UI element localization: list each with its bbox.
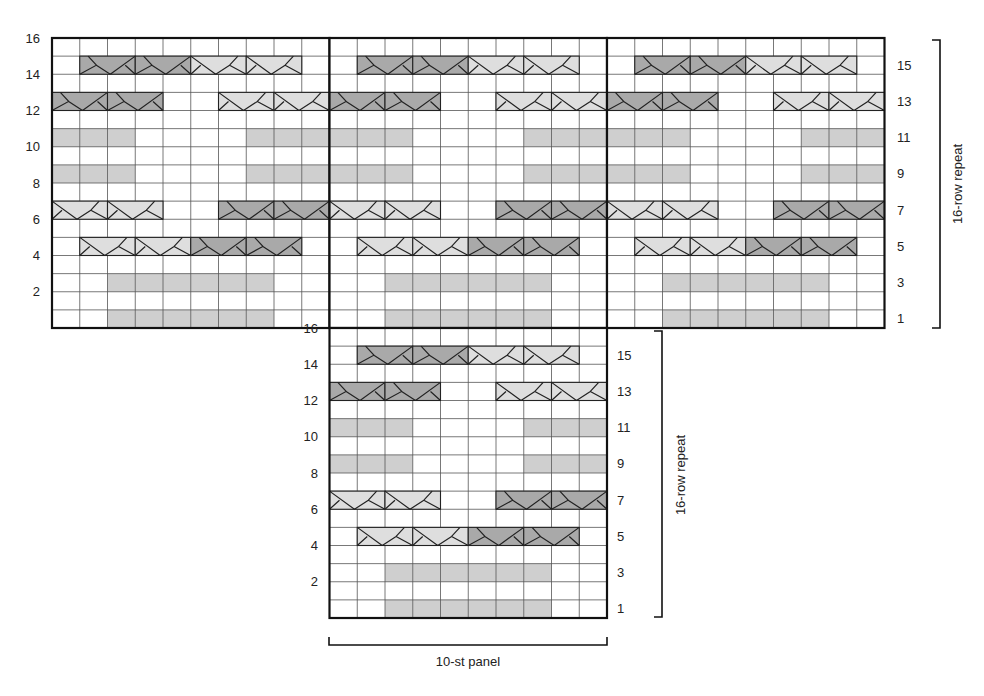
cable-cross-dark: [357, 56, 413, 74]
shaded-stitch: [690, 310, 718, 328]
right-row-label: 7: [897, 203, 904, 218]
shaded-stitch: [801, 129, 829, 147]
cable-cross-dark: [385, 382, 441, 400]
right-row-label: 15: [617, 348, 631, 363]
shaded-stitch: [330, 165, 358, 183]
left-row-label: 12: [26, 103, 40, 118]
shaded-stitch: [552, 165, 580, 183]
shaded-stitch: [579, 455, 607, 473]
shaded-stitch: [413, 274, 441, 292]
shaded-stitch: [524, 274, 552, 292]
cable-cross-light: [80, 237, 136, 255]
bottom-row-repeat-label: 16-row repeat: [673, 435, 688, 516]
cable-cross-light: [746, 56, 802, 74]
shaded-stitch: [108, 274, 136, 292]
left-row-label: 4: [33, 248, 40, 263]
shaded-stitch: [385, 129, 413, 147]
shaded-stitch: [524, 129, 552, 147]
shaded-stitch: [496, 274, 524, 292]
shaded-stitch: [607, 165, 635, 183]
cable-cross-dark: [774, 201, 830, 219]
shaded-stitch: [357, 129, 385, 147]
right-row-label: 13: [617, 384, 631, 399]
cable-cross-dark: [385, 92, 441, 110]
shaded-stitch: [441, 564, 469, 582]
cable-cross-dark: [690, 56, 746, 74]
panel-width-label: 10-st panel: [436, 654, 500, 669]
left-row-label: 2: [311, 574, 318, 589]
cable-cross-dark: [524, 237, 580, 255]
shaded-stitch: [663, 165, 691, 183]
top-panel-2: [330, 38, 608, 328]
cable-cross-dark: [413, 56, 469, 74]
shaded-stitch: [135, 310, 163, 328]
shaded-stitch: [774, 274, 802, 292]
shaded-stitch: [357, 419, 385, 437]
shaded-stitch: [302, 129, 330, 147]
shaded-stitch: [330, 129, 358, 147]
cable-cross-light: [52, 201, 108, 219]
cable-cross-light: [108, 201, 164, 219]
cable-cross-light: [191, 56, 247, 74]
shaded-stitch: [801, 274, 829, 292]
cable-cross-dark: [413, 346, 469, 364]
shaded-stitch: [135, 274, 163, 292]
cable-cross-dark: [330, 92, 386, 110]
top-panel-1: [52, 38, 330, 328]
cable-cross-light: [774, 92, 830, 110]
right-row-label: 3: [897, 275, 904, 290]
shaded-stitch: [857, 165, 885, 183]
shaded-stitch: [385, 310, 413, 328]
cable-cross-light: [607, 201, 663, 219]
shaded-stitch: [524, 564, 552, 582]
right-row-label: 3: [617, 565, 624, 580]
shaded-stitch: [746, 274, 774, 292]
shaded-stitch: [663, 310, 691, 328]
shaded-stitch: [690, 274, 718, 292]
cable-chart: 16-row repeat 16-row repeat 10-st panel …: [0, 0, 984, 696]
cable-cross-dark: [746, 237, 802, 255]
cable-cross-dark: [357, 346, 413, 364]
shaded-stitch: [219, 274, 247, 292]
shaded-stitch: [191, 274, 219, 292]
cable-cross-dark: [663, 92, 719, 110]
left-row-label: 10: [304, 429, 318, 444]
shaded-stitch: [524, 165, 552, 183]
shaded-stitch: [413, 310, 441, 328]
left-row-label: 14: [304, 357, 318, 372]
left-row-label: 6: [311, 502, 318, 517]
cable-cross-dark: [496, 491, 552, 509]
cable-cross-dark: [607, 92, 663, 110]
shaded-stitch: [413, 564, 441, 582]
shaded-stitch: [246, 310, 274, 328]
shaded-stitch: [246, 165, 274, 183]
right-row-label: 5: [617, 529, 624, 544]
shaded-stitch: [718, 274, 746, 292]
left-row-label: 8: [33, 176, 40, 191]
shaded-stitch: [330, 455, 358, 473]
cable-cross-dark: [246, 237, 302, 255]
shaded-stitch: [635, 165, 663, 183]
cable-cross-dark: [801, 237, 857, 255]
left-row-label: 14: [26, 67, 40, 82]
shaded-stitch: [468, 600, 496, 618]
top-row-repeat-bracket: 16-row repeat: [932, 40, 965, 328]
shaded-stitch: [441, 600, 469, 618]
right-row-label: 15: [897, 58, 911, 73]
shaded-stitch: [385, 274, 413, 292]
shaded-stitch: [413, 600, 441, 618]
shaded-stitch: [163, 274, 191, 292]
shaded-stitch: [302, 165, 330, 183]
shaded-stitch: [552, 419, 580, 437]
shaded-stitch: [552, 455, 580, 473]
left-row-label: 16: [26, 31, 40, 46]
right-row-label: 9: [897, 166, 904, 181]
shaded-stitch: [468, 274, 496, 292]
shaded-stitch: [108, 165, 136, 183]
cable-cross-light: [357, 527, 413, 545]
shaded-stitch: [579, 129, 607, 147]
cable-cross-dark: [468, 237, 524, 255]
cable-cross-dark: [274, 201, 330, 219]
shaded-stitch: [246, 129, 274, 147]
shaded-stitch: [385, 564, 413, 582]
